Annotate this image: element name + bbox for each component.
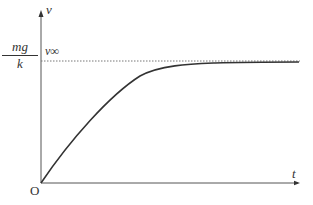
- v-infinity-label: v∞: [45, 44, 59, 59]
- k-denominator: k: [2, 56, 38, 71]
- velocity-curve: [41, 62, 299, 183]
- origin-label: O: [30, 183, 39, 199]
- mg-numerator: mg: [2, 40, 38, 56]
- y-axis-label: v: [46, 2, 52, 18]
- y-axis-arrow-icon: [39, 10, 44, 17]
- x-axis-label: t: [292, 166, 296, 182]
- velocity-time-graph: [0, 0, 313, 205]
- mg-over-k-label: mg k: [2, 40, 38, 71]
